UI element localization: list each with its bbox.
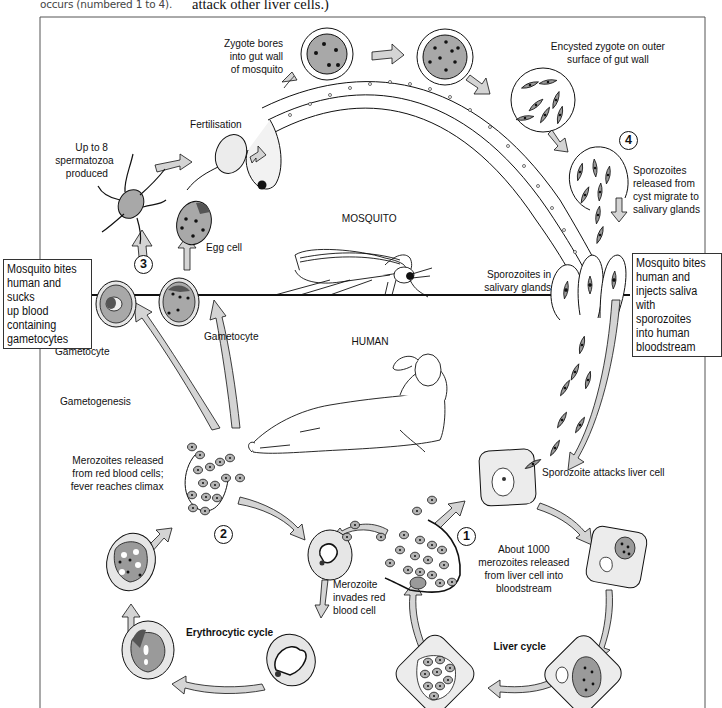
region-label-human: HUMAN bbox=[352, 335, 389, 348]
rbc-schizont-early bbox=[122, 621, 174, 679]
rbc-schizont-mature bbox=[100, 528, 161, 596]
label-spermatozoa: Up to 8 spermatozoa produced bbox=[55, 141, 108, 180]
label-sporozoite-attacks: Sporozoite attacks liver cell bbox=[542, 466, 665, 479]
liver-cell-infected bbox=[479, 449, 542, 507]
label-sporozoites-glands: Sporozoites in salivary glands bbox=[484, 268, 551, 294]
stage-number-2: 2 bbox=[214, 525, 233, 544]
rbc-merozoite-entering bbox=[308, 530, 352, 580]
human-illustration bbox=[249, 354, 447, 453]
oocyst-early bbox=[301, 28, 353, 80]
fertilised-egg bbox=[187, 130, 252, 190]
liver-cell-developing bbox=[585, 525, 649, 590]
label-liver-cycle: Liver cycle bbox=[494, 640, 546, 653]
callout-mosquito-injects: Mosquito bites human and injects saliva … bbox=[632, 253, 722, 357]
liver-cell-merozoites bbox=[391, 630, 479, 708]
stage-number-1: 1 bbox=[457, 527, 476, 546]
label-gametogenesis: Gametogenesis bbox=[60, 395, 131, 408]
label-erythrocytic-cycle: Erythrocytic cycle bbox=[186, 626, 273, 639]
label-encysted-zygote: Encysted zygote on outer surface of gut … bbox=[551, 40, 665, 66]
callout-stage-3: Mosquito bites human and sucks up blood … bbox=[3, 259, 92, 349]
callout-mosquito-injects-text: Mosquito bites human and injects saliva … bbox=[636, 256, 710, 354]
stage-number-3: 3 bbox=[134, 255, 153, 274]
region-label-mosquito: MOSQUITO bbox=[342, 212, 397, 225]
label-stage-4: Sporozoites released from cyst migrate t… bbox=[633, 164, 700, 216]
bursting-cyst bbox=[569, 147, 628, 244]
oocyst-mature bbox=[417, 29, 473, 85]
gametocyte-female bbox=[159, 278, 199, 326]
label-fertilisation: Fertilisation bbox=[190, 118, 242, 131]
label-merozoite-invades: Merozoite invades red blood cell bbox=[333, 578, 385, 617]
label-gametocyte-right: Gametocyte bbox=[204, 330, 259, 343]
mosquito-illustration bbox=[275, 249, 432, 297]
label-stage-1: About 1000 merozoites released from live… bbox=[478, 543, 569, 595]
stage-number-4: 4 bbox=[619, 131, 638, 150]
callout-stage-3-text: Mosquito bites human and sucks up blood … bbox=[7, 262, 80, 346]
label-zygote-bores: Zygote bores into gut wall of mosquito bbox=[224, 37, 283, 76]
label-stage-2: Merozoites released from red blood cells… bbox=[71, 454, 164, 493]
rbc-burst bbox=[185, 443, 244, 515]
label-egg-cell: Egg cell bbox=[206, 241, 242, 254]
liver-cell-schizont bbox=[540, 631, 626, 708]
gametocyte-male bbox=[96, 281, 136, 327]
encysted-zygote bbox=[511, 68, 575, 132]
